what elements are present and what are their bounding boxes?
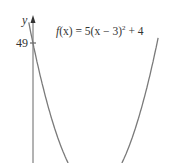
equation-label: f(x) = 5(x − 3)2 + 4 <box>56 24 144 38</box>
chart: 49 y f(x) = 5(x − 3)2 + 4 <box>0 0 187 163</box>
y-axis-label: y <box>21 13 28 27</box>
y-tick-label: 49 <box>16 36 28 50</box>
parabola-curve <box>29 22 158 163</box>
y-axis-arrow-icon <box>31 15 36 23</box>
